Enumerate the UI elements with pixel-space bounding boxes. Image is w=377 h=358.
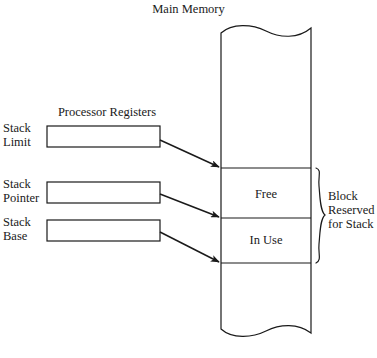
memory-section-label-free: Free [221,187,311,201]
main-memory-title: Main Memory [0,2,377,16]
main-memory-column [221,26,311,337]
arrow-stack-limit [160,140,219,167]
register-label-stack-base: Stack Base [3,215,47,243]
memory-section-label-in-use: In Use [221,233,311,247]
arrow-stack-base [160,232,219,262]
register-label-stack-limit: Stack Limit [3,121,47,149]
diagram-vector-layer [0,0,377,358]
stack-memory-diagram: Main Memory Processor Registers Stack Li… [0,0,377,358]
processor-registers-title: Processor Registers [0,105,214,119]
reserved-block-brace [316,168,325,263]
arrow-stack-pointer [160,194,219,217]
memory-column-outline [221,26,311,337]
register-box-stack-limit[interactable] [47,126,160,147]
register-label-stack-pointer: Stack Pointer [3,177,47,205]
reserved-block-label: Block Reserved for Stack [328,189,377,231]
register-box-stack-pointer[interactable] [47,182,160,203]
register-box-stack-base[interactable] [47,220,160,241]
